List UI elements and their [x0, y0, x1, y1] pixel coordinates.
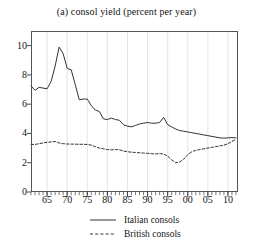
x-tick-label: 10: [216, 195, 240, 205]
legend-label-british-consols: British consols: [124, 229, 181, 239]
legend-item-british-consols: British consols: [0, 227, 253, 241]
figure: (a) consol yield (percent per year) 0246…: [0, 0, 253, 250]
legend-label-italian-consols: Italian consols: [124, 215, 179, 225]
legend-key-dashed-line: [89, 229, 117, 239]
legend-key-solid-line: [89, 215, 117, 225]
chart-legend: Italian consols British consols: [0, 213, 253, 241]
legend-item-italian-consols: Italian consols: [0, 213, 253, 227]
